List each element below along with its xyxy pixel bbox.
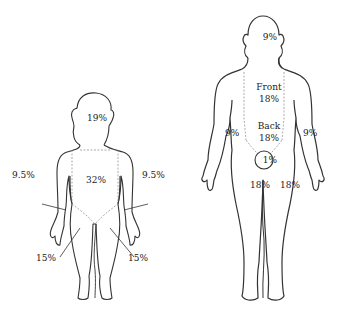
child-left-arm-label: 9.5% [12,171,35,180]
adult-head-outline [243,16,284,68]
adult-back-value: 18% [259,134,279,143]
child-trunk-label: 32% [86,176,106,185]
child-right-arm-label: 9.5% [142,171,165,180]
child-figure [50,93,139,300]
child-left-leg-label: 15% [36,254,56,263]
child-region-lines [72,150,118,224]
adult-back-title: Back [258,122,280,131]
child-right-leg-label: 15% [128,254,148,263]
adult-head-label: 9% [263,33,277,42]
adult-left-leg-label: 18% [250,181,270,190]
body-outlines [0,0,348,318]
burn-chart-diagram: 19% 32% 9.5% 9.5% 15% 15% 9% Front 18% B… [0,0,348,318]
adult-front-value: 18% [259,95,279,104]
adult-perineum-label: 1% [263,156,277,165]
adult-left-arm-label: 9% [225,129,239,138]
adult-right-arm-label: 9% [303,129,317,138]
adult-front-title: Front [256,83,281,92]
adult-right-leg-label: 18% [280,181,300,190]
child-head-label: 19% [87,114,107,123]
